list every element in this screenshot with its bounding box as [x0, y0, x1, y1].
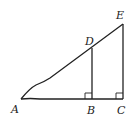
label-D: D: [84, 35, 94, 48]
segment-AC: [21, 99, 123, 100]
right-angle-marker-C: [116, 93, 123, 99]
label-A: A: [10, 103, 19, 116]
label-E: E: [115, 9, 124, 22]
label-C: C: [117, 104, 126, 117]
label-B: B: [86, 104, 95, 117]
segment-AE: [21, 24, 123, 99]
right-angle-marker-B: [85, 93, 92, 99]
geometry-diagram: A B C D E: [0, 0, 131, 120]
